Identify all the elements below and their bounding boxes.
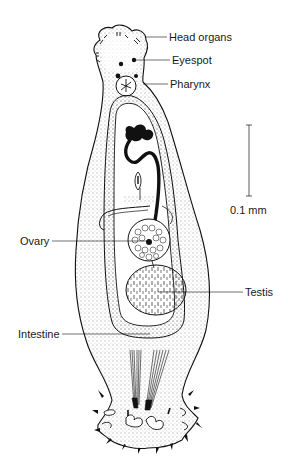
pharynx <box>116 76 136 96</box>
label-ovary: Ovary <box>20 235 49 247</box>
label-testis: Testis <box>245 286 273 298</box>
ovary <box>128 219 170 261</box>
label-eyespot: Eyespot <box>172 54 212 66</box>
scale-bar <box>246 125 252 196</box>
label-head-organs: Head organs <box>169 31 232 43</box>
label-intestine: Intestine <box>18 328 60 340</box>
label-pharynx: Pharynx <box>170 78 210 90</box>
scale-bar-label: 0.1 mm <box>230 204 267 216</box>
